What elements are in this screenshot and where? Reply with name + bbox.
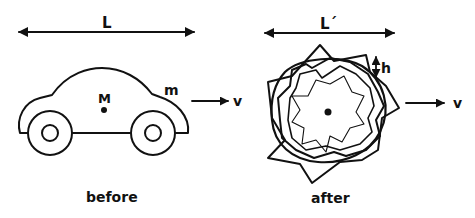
length-arrow-l-prime: L´: [265, 15, 394, 33]
velocity-arrow-after: v: [406, 95, 462, 111]
height-indicator: h: [376, 57, 391, 77]
rear-wheel-icon: [28, 111, 72, 155]
center-of-mass-dot-after: [325, 109, 332, 116]
length-arrow-l: L: [19, 14, 194, 32]
crumpled-wreck-icon: [268, 45, 399, 183]
before-panel: L M m v before: [19, 14, 242, 205]
after-panel: L´ h v after: [265, 15, 462, 206]
velocity-label-before: v: [233, 93, 242, 109]
mass-label: m: [164, 82, 179, 98]
car-icon: M m: [19, 68, 188, 155]
center-of-mass-dot: [101, 107, 107, 113]
diagram-canvas: L M m v before: [0, 0, 475, 218]
length-label: L: [102, 14, 112, 32]
height-label: h: [381, 60, 391, 76]
after-caption: after: [311, 190, 350, 206]
mass-center-label: M: [98, 91, 111, 106]
length-prime-label: L´: [320, 15, 337, 33]
velocity-arrow-before: v: [192, 93, 242, 109]
velocity-label-after: v: [453, 95, 462, 111]
front-wheel-icon: [131, 111, 175, 155]
before-caption: before: [86, 189, 138, 205]
